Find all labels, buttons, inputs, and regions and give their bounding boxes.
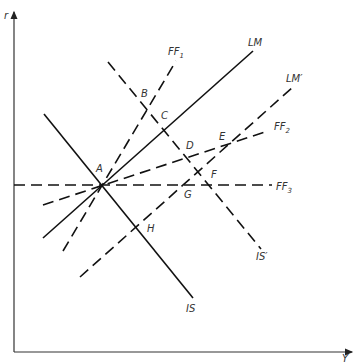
point-label-h: H [147, 223, 155, 234]
curve-label-ff2: FF2 [274, 121, 291, 135]
curve-label-lm-prime: LM′ [286, 73, 303, 84]
point-label-d: D [186, 140, 194, 151]
point-label-f: F [211, 169, 217, 180]
is-lm-ff-diagram: r Y ISIS′LMLM′FF1FF2FF3 ABCDEFGH [0, 0, 361, 363]
curve-ff1 [63, 61, 176, 251]
point-label-c: C [161, 110, 168, 121]
curve-is [44, 114, 193, 298]
curve-label-lm: LM [248, 37, 263, 48]
curve-lm [43, 51, 253, 238]
axes: r Y [4, 10, 352, 363]
curve-label-ff1: FF1 [168, 46, 184, 60]
curve-ff2 [43, 131, 268, 205]
point-label-a: A [95, 163, 103, 174]
y-axis-label: r [4, 10, 9, 21]
point-labels: ABCDEFGH [95, 88, 226, 234]
point-label-g: G [184, 189, 192, 200]
curve-label-is-prime: IS′ [256, 251, 268, 262]
curve-label-is: IS [186, 303, 196, 314]
point-label-e: E [219, 131, 226, 142]
curve-label-ff3: FF3 [276, 181, 292, 195]
curves: ISIS′LMLM′FF1FF2FF3 [14, 37, 303, 314]
x-axis-label: Y [342, 353, 349, 363]
point-label-b: B [141, 88, 148, 99]
